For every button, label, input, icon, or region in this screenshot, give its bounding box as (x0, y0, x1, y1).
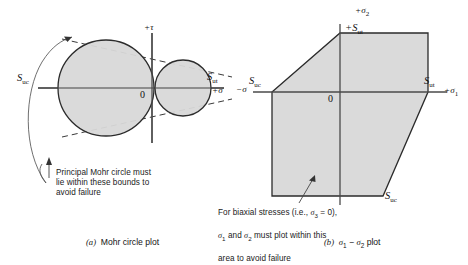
axis-label-tau-a: +τ (144, 22, 154, 32)
panel-b-sigma1-sigma2-plot (253, 24, 447, 205)
origin-label-a: 0 (140, 89, 145, 100)
origin-label-b: 0 (328, 93, 333, 104)
caption-panel-a: (a) Mohr circle plot (86, 237, 159, 247)
vertex-label-suc-left: Suc (249, 75, 261, 89)
caption-panel-b: (b) σ1 − σ2 plot (324, 237, 381, 249)
axis-label-sigma-a: +σ (212, 85, 223, 95)
vertex-label-sut-right: Sut (424, 75, 435, 89)
label-suc-a: Suc (17, 72, 29, 86)
vertex-label-sut-top: +Sut (345, 22, 363, 36)
axis-label-sigma2-b: +σ2 (355, 5, 369, 18)
annotation-biaxial-area: For biaxial stresses (i.e., σ3 = 0), σ1 … (218, 198, 393, 265)
annotation-mohr-bounds: Principal Mohr circle must lie within th… (56, 168, 186, 199)
axis-label-neg-sigma-b: −σ (236, 84, 247, 94)
callout-arrow-lower-bound-arrowhead (46, 157, 52, 165)
panel-a-mohr-circle-plot (28, 33, 232, 183)
failure-envelope-polygon (272, 33, 428, 196)
callout-arc-lower (40, 164, 46, 183)
label-sut-a: Sut (207, 71, 218, 85)
axis-label-sigma1-b: +σ1 (444, 85, 458, 98)
